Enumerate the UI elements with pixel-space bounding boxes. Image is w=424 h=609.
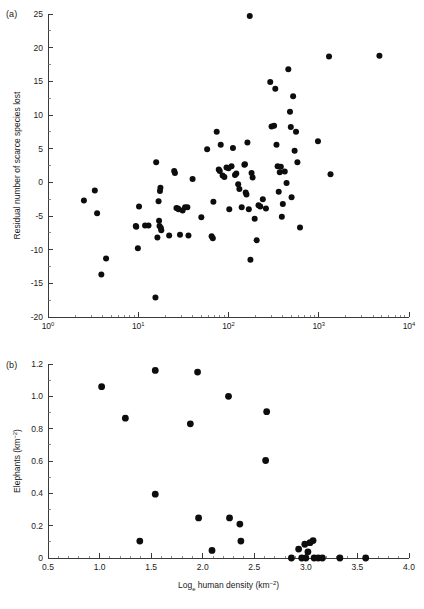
panel-a: (a) 100101102103104-20-15-10-50510152025… <box>0 0 424 340</box>
data-point <box>247 257 253 263</box>
data-point <box>279 214 285 220</box>
panel-b-xlabel: Loge human density (km−2) <box>178 580 279 592</box>
x-tick-label: 1.0 <box>94 562 106 572</box>
data-point <box>243 191 249 197</box>
panel-a-label: (a) <box>6 9 17 19</box>
data-point <box>292 148 298 154</box>
data-point <box>267 79 273 85</box>
data-point <box>136 538 143 545</box>
data-point <box>230 145 236 151</box>
panel-b-plot: 0.51.01.52.02.53.03.54.000.20.40.60.81.0… <box>0 350 424 609</box>
data-point <box>271 123 277 129</box>
scientific-figure: (a) 100101102103104-20-15-10-50510152025… <box>0 0 424 609</box>
data-point <box>157 185 163 191</box>
data-point <box>187 420 194 427</box>
data-point <box>153 159 159 165</box>
data-point <box>326 53 332 59</box>
data-point <box>295 546 302 553</box>
data-point <box>210 235 216 241</box>
data-point <box>133 224 139 230</box>
y-tick-label: 1.0 <box>31 391 43 401</box>
y-tick-label: -15 <box>31 278 44 288</box>
x-tick-label: 4.0 <box>403 562 415 572</box>
data-point <box>146 222 152 228</box>
data-point <box>152 491 159 498</box>
panel-b-ylabel: Elephants (km−2) <box>12 429 23 493</box>
data-point <box>293 129 299 135</box>
y-tick-label: 0.8 <box>31 424 43 434</box>
data-point <box>209 547 216 554</box>
data-point <box>98 383 105 390</box>
data-point <box>288 124 294 130</box>
data-point <box>156 198 162 204</box>
data-point <box>94 210 100 216</box>
panel-a-group: 100101102103104-20-15-10-50510152025 <box>31 9 416 331</box>
data-point <box>244 140 250 146</box>
data-series <box>98 367 369 561</box>
panel-b: (b) 0.51.01.52.02.53.03.54.000.20.40.60.… <box>0 350 424 609</box>
y-tick-label: 20 <box>34 43 44 53</box>
data-point <box>280 201 286 207</box>
data-point <box>214 129 220 135</box>
data-point <box>246 206 252 212</box>
data-point <box>315 138 321 144</box>
y-tick-label: 5 <box>38 144 43 154</box>
data-point <box>236 186 242 192</box>
data-point <box>294 159 300 165</box>
x-tick-label: 3.5 <box>352 562 364 572</box>
y-tick-label: -10 <box>31 245 44 255</box>
data-point <box>177 232 183 238</box>
y-tick-label: -5 <box>35 211 43 221</box>
data-point <box>184 204 190 210</box>
panel-b-label: (b) <box>6 360 17 370</box>
data-point <box>297 224 303 230</box>
data-point <box>287 109 293 115</box>
data-point <box>233 171 239 177</box>
data-point <box>122 415 129 422</box>
x-tick-label: 104 <box>403 321 416 332</box>
data-point <box>237 538 244 545</box>
data-point <box>276 189 282 195</box>
x-tick-label: 3.0 <box>300 562 312 572</box>
data-point <box>98 272 104 278</box>
data-point <box>376 53 382 59</box>
data-point <box>319 555 326 562</box>
data-point <box>81 198 87 204</box>
y-tick-label: 0.2 <box>31 521 43 531</box>
data-point <box>226 206 232 212</box>
data-point <box>289 194 295 200</box>
x-tick-label: 2.5 <box>248 562 260 572</box>
data-point <box>92 187 98 193</box>
data-point <box>152 367 159 374</box>
data-point <box>282 169 288 175</box>
data-point <box>263 408 270 415</box>
data-point <box>195 515 202 522</box>
data-point <box>218 142 224 148</box>
data-point <box>290 93 296 99</box>
data-point <box>302 555 309 562</box>
data-point <box>166 233 172 239</box>
data-point <box>136 204 142 210</box>
panel-b-group: 0.51.01.52.02.53.03.54.000.20.40.60.81.0… <box>31 359 415 572</box>
data-point <box>103 255 109 261</box>
y-tick-label: 1.2 <box>31 359 43 369</box>
data-point <box>254 237 260 243</box>
data-series <box>81 13 383 300</box>
data-point <box>263 206 269 212</box>
data-point <box>305 548 312 555</box>
y-tick-label: -20 <box>31 312 44 322</box>
data-point <box>278 164 284 170</box>
data-point <box>285 66 291 72</box>
data-point <box>190 176 196 182</box>
y-tick-label: 10 <box>34 110 44 120</box>
data-point <box>221 174 227 180</box>
data-point <box>152 294 158 300</box>
y-tick-label: 0 <box>38 177 43 187</box>
data-point <box>257 204 263 210</box>
data-point <box>242 161 248 167</box>
y-tick-label: 0.6 <box>31 456 43 466</box>
data-point <box>272 86 278 92</box>
data-point <box>310 537 317 544</box>
panel-a-xlabel: Human density (km−2) <box>187 339 270 341</box>
data-point <box>239 204 245 210</box>
